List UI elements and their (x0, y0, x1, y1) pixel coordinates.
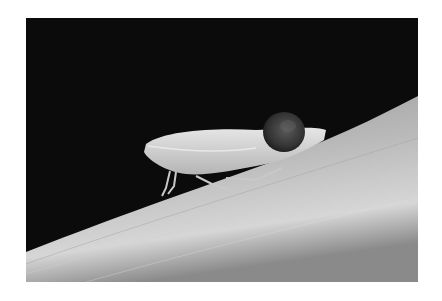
insect-photo (26, 18, 418, 282)
dark-sphere (263, 112, 305, 152)
photo-illustration (26, 18, 418, 282)
